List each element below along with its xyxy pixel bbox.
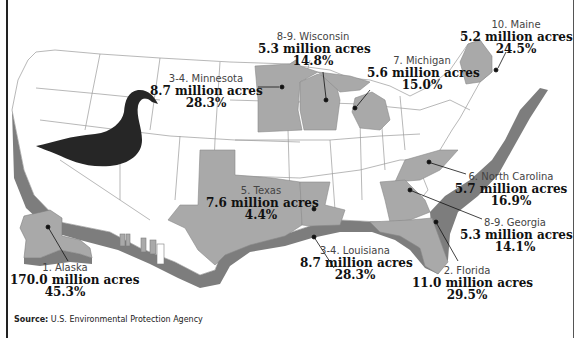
label-rank: 10. Maine (460, 20, 572, 31)
label-texas: 5. Texas 7.6 million acres 4.4% (206, 186, 316, 222)
label-michigan: 7. Michigan 5.6 million acres 15.0% (367, 56, 477, 92)
hawaii-island (141, 238, 146, 252)
source-note: Source: U.S. Environmental Protection Ag… (14, 315, 203, 324)
label-pct: 24.5% (460, 43, 572, 56)
label-pct: 29.5% (412, 289, 522, 302)
label-rank: 6. North Carolina (452, 172, 570, 183)
label-pct: 16.9% (452, 195, 570, 208)
hawaii-island (120, 234, 125, 246)
label-rank: 3-4. Louisiana (300, 246, 410, 257)
label-rank: 5. Texas (206, 186, 316, 197)
hawaii-island (157, 244, 164, 264)
label-rank: 3-4. Minnesota (150, 74, 262, 85)
source-label: Source: (14, 315, 48, 324)
label-rank: 8-9. Georgia (460, 218, 570, 229)
label-rank: 1. Alaska (10, 263, 120, 274)
label-pct: 14.8% (258, 55, 368, 68)
label-rank: 2. Florida (412, 266, 522, 277)
label-rank: 8-9. Wisconsin (258, 32, 368, 43)
label-pct: 45.3% (10, 286, 120, 299)
label-pct: 14.1% (460, 241, 570, 254)
label-pct: 4.4% (206, 209, 316, 222)
label-alaska: 1. Alaska 170.0 million acres 45.3% (10, 263, 120, 299)
label-florida: 2. Florida 11.0 million acres 29.5% (412, 266, 522, 302)
label-maine: 10. Maine 5.2 million acres 24.5% (460, 20, 572, 56)
label-georgia: 8-9. Georgia 5.3 million acres 14.1% (460, 218, 570, 254)
label-louisiana: 3-4. Louisiana 8.7 million acres 28.3% (300, 246, 410, 282)
source-text: U.S. Environmental Protection Agency (51, 315, 203, 324)
label-pct: 28.3% (300, 269, 410, 282)
label-wisconsin: 8-9. Wisconsin 5.3 million acres 14.8% (258, 32, 368, 68)
hawaii-island (126, 234, 130, 246)
label-pct: 28.3% (150, 97, 262, 110)
label-north-carolina: 6. North Carolina 5.7 million acres 16.9… (452, 172, 570, 208)
label-pct: 15.0% (367, 79, 477, 92)
label-rank: 7. Michigan (367, 56, 477, 67)
hawaii-island (150, 240, 156, 254)
label-minnesota: 3-4. Minnesota 8.7 million acres 28.3% (150, 74, 262, 110)
